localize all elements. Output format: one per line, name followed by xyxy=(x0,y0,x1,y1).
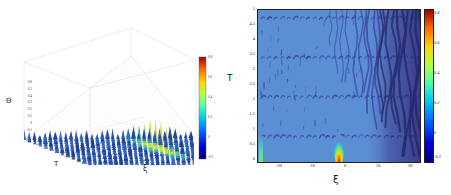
panel-3d-surface: Θ 0.6 0.5 0.4 0.3 0.2 0.1 0 -0.1 -0.2 xyxy=(0,0,225,195)
t-tick: 5 xyxy=(26,138,28,142)
axis-label-t-right: T xyxy=(227,73,233,83)
t-tick: 3 xyxy=(49,146,51,150)
y-tick: 0.5 xyxy=(250,142,256,146)
x-tick: 20 xyxy=(408,163,412,168)
y-tick: 4.5 xyxy=(250,22,256,26)
y-tick: 5 xyxy=(253,7,255,11)
t-axis-ticks-left: 5 4 3 2 1 0 xyxy=(26,138,90,160)
xi-tick: 20 xyxy=(189,137,192,141)
heatmap-graphic xyxy=(258,10,420,162)
y-tick: 3.5 xyxy=(250,52,256,56)
panel-heatmap: T 0 0.5 1 1.5 2 2.5 3 3.5 4 4.5 5 xyxy=(225,0,451,195)
t-tick: 0 xyxy=(85,158,87,162)
x-axis-ticks-right: -20 -10 0 10 20 xyxy=(253,163,425,173)
colorbar-tick: 0.4 xyxy=(208,95,212,99)
colorbar-tick: 0.2 xyxy=(434,101,440,105)
colorbar-tick: 0.2 xyxy=(208,115,212,119)
axis-label-t-left: T xyxy=(54,160,58,168)
colorbar-tick: 0.6 xyxy=(208,75,212,79)
y-tick: 1 xyxy=(253,127,255,131)
colorbar-tick: 0.6 xyxy=(434,41,440,45)
colorbar-tick: 0 xyxy=(434,131,436,135)
y-tick: 0 xyxy=(253,157,255,161)
x-tick: 0 xyxy=(344,163,346,168)
colorbar-tick: 0.8 xyxy=(434,11,440,15)
colorbar-tick: 0.4 xyxy=(434,71,440,75)
xi-tick: -10 xyxy=(116,153,121,157)
x-tick: -10 xyxy=(309,163,315,168)
colorbar-right xyxy=(424,9,434,163)
y-tick: 1.5 xyxy=(250,112,256,116)
colorbar-tick: -0.2 xyxy=(434,155,441,159)
t-tick: 4 xyxy=(37,142,39,146)
y-tick: 4 xyxy=(253,37,255,41)
y-tick: 2.5 xyxy=(250,82,256,86)
heatmap-canvas xyxy=(257,9,421,163)
y-tick: 3 xyxy=(253,67,255,71)
xi-axis-ticks-left: -20 -10 0 10 20 xyxy=(92,140,197,162)
x-tick: -20 xyxy=(276,163,282,168)
x-tick: 10 xyxy=(376,163,380,168)
colorbar-ticks-left: 0.8 0.6 0.4 0.2 0 -0.2 xyxy=(208,54,224,162)
colorbar-tick: 0.8 xyxy=(208,55,212,59)
axis-label-xi-right: ξ xyxy=(333,174,339,185)
t-tick: 2 xyxy=(61,150,63,154)
y-axis-ticks-right: 0 0.5 1 1.5 2 2.5 3 3.5 4 4.5 5 xyxy=(237,5,255,165)
xi-tick: 0 xyxy=(141,148,143,152)
colorbar-tick: 0 xyxy=(208,135,210,139)
xi-tick: -20 xyxy=(92,159,97,163)
colorbar-ticks-right: 0.8 0.6 0.4 0.2 0 -0.2 xyxy=(434,5,451,165)
axis-label-xi-left: ξ xyxy=(143,164,147,173)
xi-tick: 10 xyxy=(165,142,168,146)
surface-3d-graphic xyxy=(0,0,225,195)
y-tick: 2 xyxy=(253,97,255,101)
colorbar-tick: -0.2 xyxy=(208,155,213,159)
t-tick: 1 xyxy=(73,154,75,158)
figure-container: Θ 0.6 0.5 0.4 0.3 0.2 0.1 0 -0.1 -0.2 xyxy=(0,0,451,195)
